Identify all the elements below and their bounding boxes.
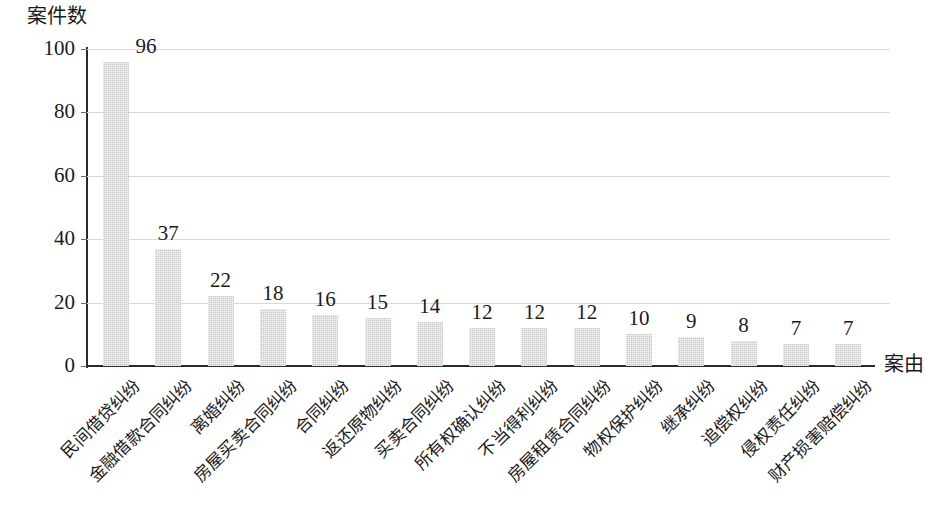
y-tick-label: 100 <box>5 38 75 59</box>
y-tick-label: 40 <box>5 228 75 249</box>
bar-value-label: 7 <box>825 318 871 339</box>
bar <box>155 249 181 366</box>
bar <box>365 318 391 366</box>
y-tick-label: 60 <box>5 165 75 186</box>
bar-value-label: 12 <box>564 302 610 323</box>
bar-value-label: 22 <box>198 270 244 291</box>
bar <box>469 328 495 366</box>
y-tick-label: 80 <box>5 101 75 122</box>
bar-value-label: 10 <box>616 308 662 329</box>
bar-value-label: 9 <box>668 311 714 332</box>
bar-value-label: 7 <box>773 318 819 339</box>
x-axis-category-label: 房屋买卖合同纠纷 <box>191 376 301 486</box>
bar <box>678 337 704 366</box>
bar <box>312 315 338 366</box>
bar <box>731 341 757 366</box>
bar-value-label: 18 <box>250 283 296 304</box>
x-axis-category-label: 所有权确认纠纷 <box>412 376 510 474</box>
bar <box>835 344 861 366</box>
bar-chart: 案件数 案由 020406080100 96372218161514121212… <box>0 0 933 526</box>
bar <box>208 296 234 366</box>
bar <box>783 344 809 366</box>
bar <box>626 334 652 366</box>
bar-value-label: 15 <box>355 292 401 313</box>
bar <box>417 322 443 366</box>
bar-value-label: 16 <box>302 289 348 310</box>
x-axis-title: 案由 <box>884 352 924 376</box>
bar-value-label: 37 <box>145 223 191 244</box>
bar <box>103 62 129 366</box>
y-tick-mark <box>81 366 87 367</box>
y-axis-title: 案件数 <box>27 4 87 28</box>
bar <box>521 328 547 366</box>
bar-value-label: 14 <box>407 296 453 317</box>
y-tick-label: 0 <box>5 355 75 376</box>
x-axis-category-label: 财产损害赔偿纠纷 <box>766 376 876 486</box>
bar-value-label: 12 <box>511 302 557 323</box>
bar-value-label: 8 <box>721 315 767 336</box>
y-tick-label: 20 <box>5 292 75 313</box>
bar-value-label: 96 <box>123 36 169 57</box>
x-axis-category-label: 金融借款合同纠纷 <box>86 376 196 486</box>
bar <box>574 328 600 366</box>
bar <box>260 309 286 366</box>
bar-value-label: 12 <box>459 302 505 323</box>
